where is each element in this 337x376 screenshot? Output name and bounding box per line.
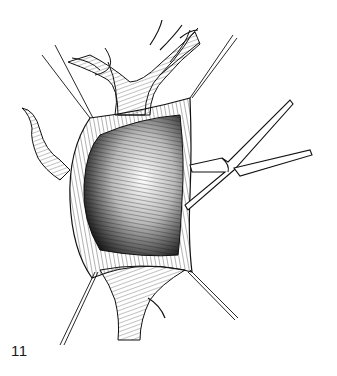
clamp-instrument bbox=[185, 100, 312, 210]
vessel-branch-bottom bbox=[100, 266, 185, 340]
figure-number: 11 bbox=[11, 342, 28, 359]
vessel-branch-left bbox=[22, 108, 70, 180]
opened-cavity bbox=[84, 115, 183, 256]
surgical-illustration bbox=[0, 0, 337, 376]
